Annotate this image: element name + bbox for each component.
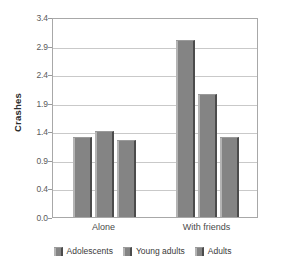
- y-axis-tick-label: 0.4: [36, 184, 48, 194]
- legend-swatch-icon: [195, 247, 204, 256]
- gridline: [53, 76, 257, 77]
- legend-item[interactable]: Young adults: [123, 246, 185, 256]
- y-axis-tick-label: 0.9: [36, 156, 48, 166]
- x-axis-tick-labels: AloneWith friends: [52, 222, 258, 238]
- y-axis-tick-label: 1.4: [36, 127, 48, 137]
- bar: [220, 137, 239, 217]
- plot-area: [52, 18, 258, 218]
- y-axis-tick-label: 1.9: [36, 99, 48, 109]
- y-axis-title-text: Crashes: [12, 93, 23, 132]
- bar: [117, 140, 136, 217]
- legend-label: Adults: [208, 246, 232, 256]
- y-axis-tick-label: 2.4: [36, 70, 48, 80]
- y-axis-tick-labels: 0.00.40.91.41.92.42.93.4: [24, 0, 50, 225]
- legend-item[interactable]: Adolescents: [54, 246, 113, 256]
- legend-label: Adolescents: [67, 246, 113, 256]
- chart-legend: AdolescentsYoung adultsAdults: [0, 246, 285, 256]
- legend-swatch-icon: [123, 247, 132, 256]
- legend-item[interactable]: Adults: [195, 246, 232, 256]
- y-axis-tick-label: 0.0: [36, 213, 48, 223]
- bar: [198, 94, 217, 217]
- gridline: [53, 133, 257, 134]
- x-axis-tick-label: With friends: [183, 222, 231, 232]
- y-axis-tick-label: 2.9: [36, 42, 48, 52]
- gridline: [53, 105, 257, 106]
- legend-swatch-icon: [54, 247, 63, 256]
- bar: [95, 131, 114, 217]
- gridline: [53, 48, 257, 49]
- bar-chart-figure: Crashes 0.00.40.91.41.92.42.93.4 AloneWi…: [0, 0, 285, 269]
- y-axis-tick-mark: [48, 218, 52, 219]
- y-axis-tick-label: 3.4: [36, 13, 48, 23]
- legend-label: Young adults: [136, 246, 185, 256]
- bar: [73, 137, 92, 217]
- bar: [176, 40, 195, 217]
- x-axis-tick-label: Alone: [92, 222, 115, 232]
